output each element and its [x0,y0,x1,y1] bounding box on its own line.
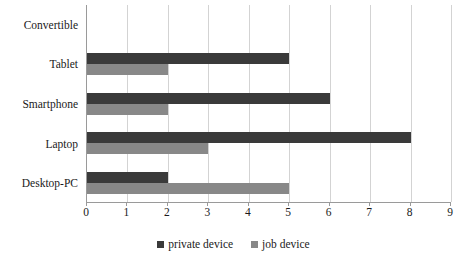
y-axis-labels: ConvertibleTabletSmartphoneLaptopDesktop… [0,5,82,203]
bar [87,183,289,194]
x-axis-tick-label: 9 [447,206,453,218]
x-axis-tick-label: 3 [204,206,210,218]
bar-group [87,163,450,203]
x-axis-tick-label: 7 [366,206,372,218]
bar [87,104,168,115]
bar-group [87,84,450,124]
bar-chart: ConvertibleTabletSmartphoneLaptopDesktop… [0,0,467,264]
legend-label: private device [168,238,233,250]
plot-area [86,5,450,203]
legend-square-marker-icon [157,241,164,248]
bar [87,132,411,143]
x-axis-tick-label: 6 [326,206,332,218]
gridline [451,5,452,202]
x-axis-tick-label: 0 [83,206,89,218]
x-axis-labels: 0123456789 [86,206,450,224]
y-axis-tick-label: Laptop [45,138,78,150]
y-axis-tick-label: Smartphone [22,98,78,110]
legend-label: job device [262,238,310,250]
x-axis-tick-label: 5 [285,206,291,218]
x-axis-tick-label: 8 [407,206,413,218]
y-axis-tick-label: Convertible [24,19,78,31]
x-axis-tick-label: 1 [124,206,130,218]
x-axis-tick-label: 2 [164,206,170,218]
legend-item[interactable]: job device [251,238,310,250]
legend-item[interactable]: private device [157,238,233,250]
bar [87,172,168,183]
bar [87,64,168,75]
bar [87,143,208,154]
legend-square-marker-icon [251,241,258,248]
bar-group [87,45,450,85]
y-axis-tick-label: Tablet [49,58,78,70]
y-axis-tick-label: Desktop-PC [22,177,78,189]
bar-group [87,5,450,45]
bar [87,93,330,104]
bar-group [87,124,450,164]
x-axis-tick-label: 4 [245,206,251,218]
bar [87,53,289,64]
chart-legend: private devicejob device [0,238,467,250]
